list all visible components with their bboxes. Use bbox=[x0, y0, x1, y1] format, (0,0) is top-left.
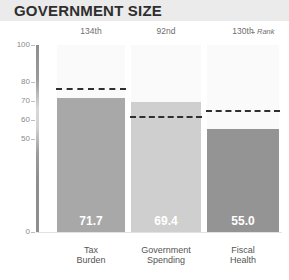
category-label: FiscalHealth bbox=[199, 245, 287, 265]
rank-reference-line bbox=[130, 116, 202, 118]
bar-tax-burden[interactable]: 71.7 bbox=[57, 98, 125, 232]
x-axis-baseline bbox=[36, 232, 282, 233]
bar-value-label: 69.4 bbox=[131, 214, 201, 228]
y-axis-tick: 0 bbox=[0, 227, 30, 237]
y-axis-tick: 80 bbox=[0, 77, 30, 87]
y-axis-tick-mark bbox=[31, 45, 35, 46]
category-label: GovernmentSpending bbox=[123, 245, 209, 265]
y-axis-tick-mark bbox=[31, 82, 35, 83]
category-label-line: Fiscal bbox=[199, 245, 287, 255]
category-label-line: Government bbox=[123, 245, 209, 255]
y-axis-tick: 100 bbox=[0, 40, 30, 50]
y-axis-tick-mark bbox=[31, 101, 35, 102]
rank-label: 134th bbox=[57, 26, 125, 36]
page-title: GOVERNMENT SIZE bbox=[14, 2, 162, 19]
rank-reference-line bbox=[56, 88, 126, 90]
y-axis-tick-label: 0 bbox=[26, 227, 30, 236]
bar-government-spending[interactable]: 69.4 bbox=[131, 102, 201, 232]
y-axis-spine bbox=[36, 45, 39, 233]
y-axis-tick-mark bbox=[31, 120, 35, 121]
category-label-line: Spending bbox=[123, 255, 209, 265]
government-size-chart-card: GOVERNMENT SIZE Rank 10080706050071.769.… bbox=[0, 0, 289, 280]
rank-reference-line bbox=[206, 110, 280, 112]
chart-title-band: GOVERNMENT SIZE bbox=[0, 0, 289, 21]
y-axis-tick-mark bbox=[31, 139, 35, 140]
y-axis-tick-label: 100 bbox=[17, 40, 30, 49]
y-axis-tick: 70 bbox=[0, 96, 30, 106]
bar-value-label: 55.0 bbox=[207, 214, 279, 228]
y-axis-tick-label: 70 bbox=[21, 96, 30, 105]
category-label-line: Tax bbox=[49, 245, 133, 255]
y-axis-tick-mark bbox=[31, 232, 35, 233]
plot-area: 10080706050071.769.455.0 bbox=[0, 40, 289, 240]
bar-fiscal-health[interactable]: 55.0 bbox=[207, 129, 279, 232]
category-label: TaxBurden bbox=[49, 245, 133, 265]
rank-label: 130th bbox=[207, 26, 279, 36]
y-axis-tick-label: 60 bbox=[21, 115, 30, 124]
category-label-line: Health bbox=[199, 255, 287, 265]
y-axis-tick: 60 bbox=[0, 115, 30, 125]
bar-value-label: 71.7 bbox=[57, 214, 125, 228]
rank-label: 92nd bbox=[131, 26, 201, 36]
y-axis-tick-label: 50 bbox=[21, 134, 30, 143]
y-axis-tick-label: 80 bbox=[21, 77, 30, 86]
y-axis-tick: 50 bbox=[0, 134, 30, 144]
category-label-line: Burden bbox=[49, 255, 133, 265]
